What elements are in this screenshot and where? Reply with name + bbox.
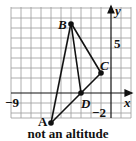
label-d: D (80, 96, 91, 111)
y-tick-label: 5 (114, 36, 121, 51)
y-axis-arrow-icon (108, 6, 114, 13)
label-b: B (57, 17, 67, 32)
x-axis-label: x (123, 95, 131, 110)
point-b (68, 21, 74, 27)
coordinate-plane-figure: A B C D y x 5 −9 −2 (0, 0, 136, 126)
x-tick-label-neg2: −2 (92, 105, 106, 120)
point-a (48, 120, 54, 126)
point-d (78, 90, 84, 96)
y-axis-label: y (113, 3, 121, 18)
label-c: C (100, 58, 109, 73)
x-tick-label-neg9: −9 (5, 95, 19, 110)
label-a: A (38, 114, 48, 126)
figure-caption: not an altitude (0, 126, 136, 141)
